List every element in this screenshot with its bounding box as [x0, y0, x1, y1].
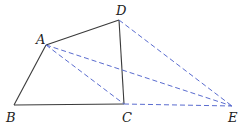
label-d: D [115, 3, 127, 18]
segment-de [119, 20, 232, 106]
label-a: A [35, 32, 45, 47]
segment-da [46, 20, 119, 45]
segment-ce [124, 104, 232, 106]
segment-cd [119, 20, 124, 104]
geometry-figure: A B C D E [0, 0, 244, 127]
label-e: E [227, 110, 238, 125]
dashed-construction-lines [46, 20, 232, 106]
segment-ae [46, 45, 232, 106]
label-b: B [5, 110, 16, 125]
segment-bc [14, 104, 124, 105]
segment-ac [46, 45, 124, 104]
label-c: C [122, 110, 132, 125]
segment-ab [14, 45, 46, 105]
